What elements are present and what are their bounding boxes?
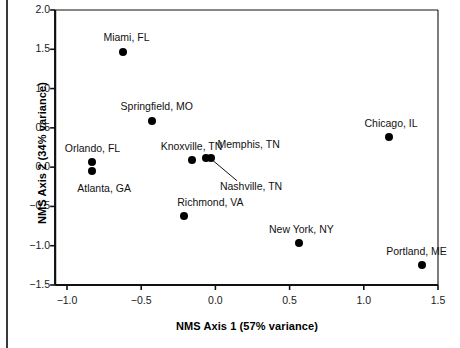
data-point-marker[interactable] <box>88 158 96 166</box>
x-tick-label: 1.0 <box>339 294 389 306</box>
data-point-label: Orlando, FL <box>65 142 120 154</box>
x-axis-title: NMS Axis 1 (57% variance) <box>55 320 439 332</box>
nms-ordination-figure: −1.5−1.0−0.50.00.51.01.52.0−1.0−0.50.00.… <box>0 0 460 348</box>
x-tick-label: 0.5 <box>265 294 315 306</box>
data-point-label: Memphis, TN <box>217 138 279 150</box>
y-tick-label: 2.0 <box>12 3 50 15</box>
data-point-marker[interactable] <box>188 156 196 164</box>
data-point-label: Nashville, TN <box>220 180 282 192</box>
label-leader-line <box>212 160 237 181</box>
leader-lines <box>212 160 237 181</box>
data-point-label: Miami, FL <box>103 31 149 43</box>
x-tick-label: −1.0 <box>42 294 92 306</box>
data-point-marker[interactable] <box>418 261 426 269</box>
data-point-marker[interactable] <box>148 117 156 125</box>
data-point-label: Springfield, MO <box>121 100 193 112</box>
data-point-marker[interactable] <box>207 154 215 162</box>
x-tick-label: 0.0 <box>190 294 240 306</box>
y-tick-label: −1.5 <box>12 278 50 290</box>
data-point-label: Knoxville, TN <box>161 140 223 152</box>
data-point-label: Atlanta, GA <box>77 182 131 194</box>
data-point-label: New York, NY <box>269 223 334 235</box>
data-point-label: Chicago, IL <box>365 117 418 129</box>
y-axis-title: NMS Axis 2 (34% variance) <box>36 28 48 278</box>
data-point-marker[interactable] <box>295 239 303 247</box>
data-point-label: Richmond, VA <box>177 196 243 208</box>
data-point-marker[interactable] <box>385 133 393 141</box>
data-point-label: Portland, ME <box>386 245 447 257</box>
x-tick-label: 1.5 <box>413 294 460 306</box>
x-tick-label: −0.5 <box>116 294 166 306</box>
